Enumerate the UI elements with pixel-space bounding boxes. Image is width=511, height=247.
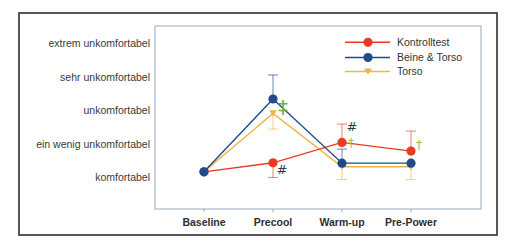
y-tick-label: komfortabel (95, 171, 150, 183)
y-axis: komfortabelein wenig unkomfortabelunkomf… (36, 37, 150, 183)
comfort-line-chart: komfortabelein wenig unkomfortabelunkomf… (0, 0, 511, 247)
x-tick-label: Precool (254, 216, 293, 228)
data-point-marker (199, 167, 208, 176)
dagger-annotation: † (348, 136, 354, 150)
data-point-marker (337, 138, 346, 147)
legend-label: Torso (397, 65, 423, 77)
x-tick-label: Warm-up (319, 216, 364, 228)
data-point-marker (406, 159, 415, 168)
hash-annotation: # (277, 162, 288, 177)
data-point-marker (337, 159, 346, 168)
y-tick-label: unkomfortabel (83, 104, 150, 116)
y-tick-label: extrem unkomfortabel (48, 37, 150, 49)
hash-annotation: # (347, 119, 358, 134)
chart-canvas: komfortabelein wenig unkomfortabelunkomf… (0, 0, 511, 247)
dagger-annotation: ‡ (278, 95, 288, 119)
dagger-annotation: † (416, 138, 422, 152)
y-tick-label: sehr unkomfortabel (60, 71, 150, 83)
legend-marker (363, 38, 372, 47)
x-tick-label: Baseline (182, 216, 225, 228)
x-tick-label: Pre-Power (385, 216, 437, 228)
y-tick-label: ein wenig unkomfortabel (36, 138, 150, 150)
data-point-marker (268, 94, 277, 103)
x-axis: BaselinePrecoolWarm-upPre-Power (182, 209, 437, 228)
legend-label: Kontrolltest (397, 36, 450, 48)
legend-label: Beine & Torso (397, 51, 462, 63)
legend-marker (363, 53, 372, 62)
data-point-marker (406, 147, 415, 156)
